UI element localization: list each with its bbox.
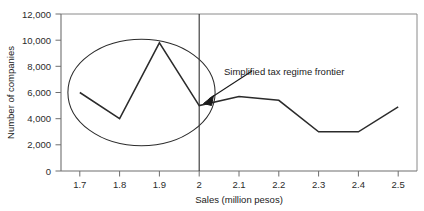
x-tick-label-2-2: 2.2 — [272, 179, 285, 190]
y-tick-label-10000: 10,000 — [22, 35, 51, 46]
y-tick-label-12000: 12,000 — [22, 9, 51, 20]
y-tick-label-2000: 2,000 — [27, 139, 51, 150]
y-tick-label-8000: 8,000 — [27, 61, 51, 72]
y-axis-title: Number of companies — [5, 46, 16, 139]
x-tick-label-2-4: 2.4 — [352, 179, 365, 190]
x-tick-label-2-1: 2.1 — [232, 179, 245, 190]
y-tick-label-0: 0 — [46, 166, 51, 177]
x-tick-label-1-7: 1.7 — [73, 179, 86, 190]
x-axis-title: Sales (million pesos) — [195, 194, 283, 205]
frontier-annotation-label: Simplified tax regime frontier — [224, 66, 344, 77]
x-tick-label-1-9: 1.9 — [153, 179, 166, 190]
chart-container: 12,000 10,000 8,000 6,000 4,000 2,000 0 … — [0, 0, 424, 211]
y-tick-label-6000: 6,000 — [27, 87, 51, 98]
x-tick-label-1-8: 1.8 — [113, 179, 126, 190]
x-axis-tick-labels: 1.7 1.8 1.9 2 2.1 2.2 2.3 2.4 2.5 — [73, 179, 405, 190]
x-tick-label-2-3: 2.3 — [312, 179, 325, 190]
x-tick-label-2: 2 — [197, 179, 202, 190]
line-chart: 12,000 10,000 8,000 6,000 4,000 2,000 0 … — [0, 0, 424, 211]
x-tick-label-2-5: 2.5 — [392, 179, 405, 190]
y-tick-label-4000: 4,000 — [27, 113, 51, 124]
